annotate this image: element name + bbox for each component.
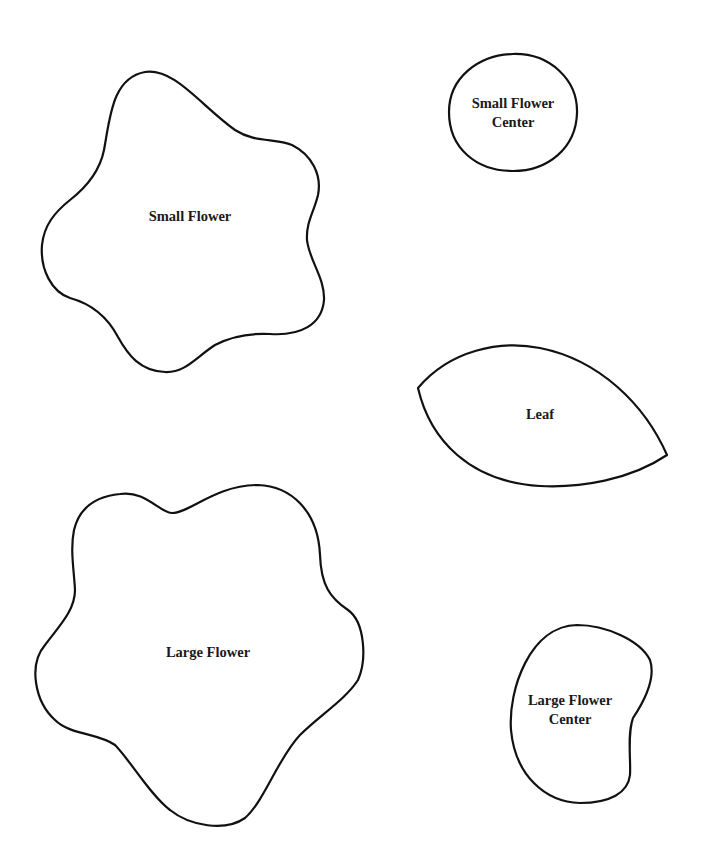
leaf-label: Leaf xyxy=(526,406,554,422)
large-flower-center-label-line2: Center xyxy=(549,711,592,727)
large-flower-label: Large Flower xyxy=(166,644,251,660)
small-flower-center-label-line1: Small Flower xyxy=(472,95,555,111)
small-flower-piece: Small Flower xyxy=(42,72,324,372)
pattern-template-sheet: Small Flower Small Flower Center Leaf La… xyxy=(0,0,702,862)
large-flower-piece: Large Flower xyxy=(35,485,363,826)
small-flower-label: Small Flower xyxy=(149,208,232,224)
small-flower-center-outline xyxy=(449,54,577,171)
leaf-piece: Leaf xyxy=(418,345,667,486)
large-flower-center-piece: Large Flower Center xyxy=(511,625,652,803)
small-flower-center-label-line2: Center xyxy=(492,114,535,130)
small-flower-center-piece: Small Flower Center xyxy=(449,54,577,171)
large-flower-center-label-line1: Large Flower xyxy=(528,692,613,708)
